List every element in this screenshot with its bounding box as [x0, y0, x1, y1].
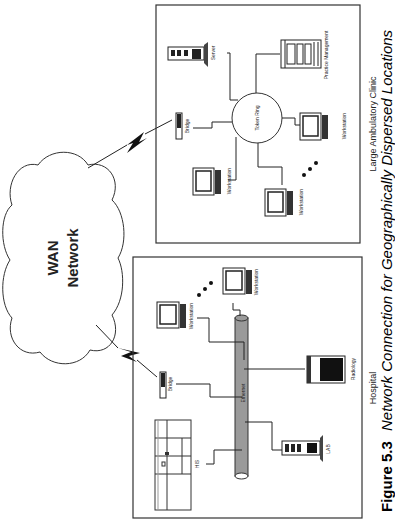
hospital-more-dots [197, 281, 213, 297]
hospital-workstation-label-1: Workstation [253, 269, 259, 296]
hospital-bridge-icon [160, 372, 166, 398]
clinic-title: Large Ambulatory Clinic [368, 76, 378, 172]
hospital-workstation-icon-2 [157, 302, 186, 328]
hospital-workstation-label-2: Workstation [188, 303, 194, 330]
his-label: HIS [194, 459, 200, 468]
svg-text:Figure 5.3 Network Conne: Figure 5.3 Network Connection for Geogra… [378, 29, 395, 512]
wan-cloud: WAN Network [3, 152, 124, 364]
network-diagram: WAN Network Large Ambulatory Clinic Toke… [0, 0, 395, 522]
clinic-bridge-label: Bridge [184, 119, 190, 134]
clinic-workstation-icon-1 [300, 113, 328, 140]
clinic-workstation-icon-3 [265, 189, 293, 216]
clinic-more-dots [302, 161, 318, 177]
practice-management-icon [281, 40, 321, 68]
clinic-bridge-icon [176, 113, 182, 139]
wan-label: WAN [44, 241, 61, 276]
radiology-icon [307, 356, 345, 383]
figure-title: Network Connection for Geographically Di… [378, 29, 395, 431]
hospital-title: Hospital [368, 372, 378, 405]
lab-icon [282, 435, 323, 462]
network-label: Network [64, 228, 81, 288]
server-label: Server [210, 45, 216, 60]
practice-management-label: Practice Management [323, 30, 329, 79]
server-icon [168, 42, 208, 67]
radiology-label: Radiology [350, 357, 356, 380]
wan-link-clinic [88, 120, 172, 168]
lab-label: LAB [325, 444, 331, 454]
clinic-workstation-label-3: Workstation [298, 189, 304, 216]
hospital-region: Hospital Ethernet Workstation Workstatio… [133, 257, 378, 518]
clinic-workstation-label-1: Workstation [341, 113, 347, 140]
hospital-workstation-icon-1 [223, 268, 252, 294]
ethernet-label: Ethernet [240, 383, 246, 403]
figure-label: Figure 5.3 [378, 441, 395, 512]
hospital-bridge-label: Bridge [167, 377, 173, 392]
clinic-region: Large Ambulatory Clinic Token Ring Serve… [156, 5, 378, 243]
clinic-workstation-icon-2 [193, 168, 221, 195]
figure-caption: Figure 5.3 Network Connection for Geogra… [378, 29, 395, 512]
clinic-workstation-label-2: Workstation [226, 168, 232, 195]
his-icon [155, 420, 191, 510]
token-ring-label: Token Ring [254, 105, 260, 130]
